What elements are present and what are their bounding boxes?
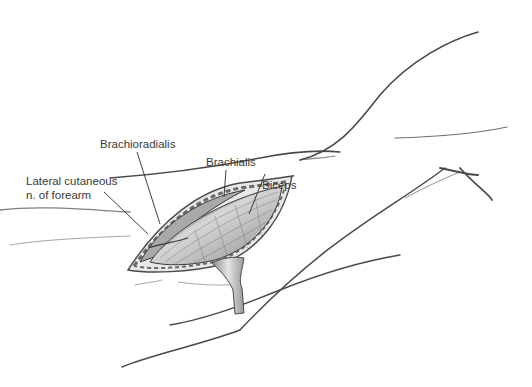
label-lateral-cutaneous-line1: Lateral cutaneous: [26, 174, 117, 188]
label-brachioradialis: Brachioradialis: [100, 137, 175, 151]
label-biceps: Biceps: [262, 178, 297, 192]
retractor: [212, 257, 244, 314]
label-brachialis: Brachialis: [206, 155, 256, 169]
label-lateral-cutaneous-line2: n. of forearm: [26, 188, 91, 202]
